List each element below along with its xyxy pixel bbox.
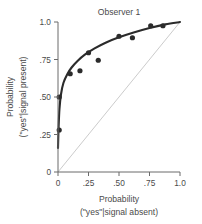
y-tick-label: .25 bbox=[39, 130, 51, 140]
x-tick-label: 0 bbox=[56, 178, 61, 188]
x-tick-label: .25 bbox=[83, 178, 95, 188]
data-point bbox=[160, 23, 165, 28]
data-point bbox=[96, 58, 101, 63]
data-point bbox=[86, 50, 91, 55]
data-point bbox=[57, 127, 62, 132]
data-point bbox=[116, 34, 121, 39]
y-tick-label: .75 bbox=[39, 55, 51, 65]
x-tick-label: .50 bbox=[113, 178, 125, 188]
x-axis-tick-labels: 0.25.50.751.0 bbox=[56, 178, 186, 188]
y-tick-label: .50 bbox=[39, 92, 51, 102]
x-tick-label: .75 bbox=[144, 178, 156, 188]
roc-fit-curve bbox=[58, 22, 180, 148]
plot-area bbox=[57, 22, 180, 172]
data-point bbox=[68, 71, 73, 76]
x-axis-title-line1: Probability bbox=[99, 194, 140, 204]
roc-chart: Observer 1 0.25.50.751.0 0.25.50.751.0 P… bbox=[0, 0, 202, 224]
y-axis-ticks bbox=[54, 22, 58, 172]
x-tick-label: 1.0 bbox=[174, 178, 186, 188]
data-point bbox=[148, 23, 153, 28]
x-axis-ticks bbox=[58, 172, 180, 176]
data-point bbox=[77, 68, 82, 73]
x-axis-title-line2: ("yes"|signal absent) bbox=[80, 207, 158, 217]
y-axis-tick-labels: 0.25.50.751.0 bbox=[39, 17, 51, 177]
axes: 0.25.50.751.0 0.25.50.751.0 bbox=[39, 17, 186, 188]
chart-svg: Observer 1 0.25.50.751.0 0.25.50.751.0 P… bbox=[0, 0, 202, 224]
data-point bbox=[130, 35, 135, 40]
y-tick-label: 1.0 bbox=[39, 17, 51, 27]
reference-diagonal-line bbox=[58, 22, 180, 172]
y-tick-label: 0 bbox=[46, 167, 51, 177]
chart-title: Observer 1 bbox=[98, 7, 141, 17]
y-axis-title-line2: ("yes"|signal present) bbox=[18, 56, 28, 137]
y-axis-title-line1: Probability bbox=[5, 76, 15, 117]
